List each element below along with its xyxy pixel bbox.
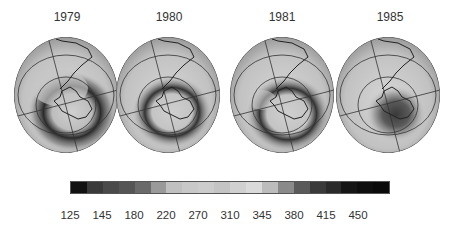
- globes: [0, 0, 459, 170]
- tick-label: 310: [220, 209, 239, 221]
- colorbar-swatch: [373, 182, 389, 193]
- tick-label: 345: [252, 209, 271, 221]
- tick-label: 125: [60, 209, 79, 221]
- colorbar-swatch: [103, 182, 119, 193]
- globe-1979: [14, 37, 118, 153]
- tick-label: 380: [284, 209, 303, 221]
- tick-label: 450: [348, 209, 367, 221]
- globe-1980: [116, 37, 220, 153]
- colorbar: [70, 181, 390, 194]
- colorbar-swatch: [326, 182, 342, 193]
- tick-label: 270: [188, 209, 207, 221]
- tick-label: 180: [124, 209, 143, 221]
- colorbar-swatch: [230, 182, 246, 193]
- colorbar-ticks: 125 145 180 220 270 310 345 380 415 450: [55, 209, 405, 223]
- colorbar-swatch: [135, 182, 151, 193]
- colorbar-swatch: [294, 182, 310, 193]
- colorbar-swatch: [151, 182, 167, 193]
- colorbar-swatch: [214, 182, 230, 193]
- colorbar-swatch: [262, 182, 278, 193]
- colorbar-swatch: [87, 182, 103, 193]
- colorbar-swatch: [198, 182, 214, 193]
- colorbar-swatch: [310, 182, 326, 193]
- colorbar-swatch: [341, 182, 357, 193]
- globe-1985: [336, 37, 440, 153]
- tick-label: 220: [156, 209, 175, 221]
- globe-1981: [230, 37, 334, 153]
- colorbar-swatch: [278, 182, 294, 193]
- colorbar-swatch: [357, 182, 373, 193]
- colorbar-swatch: [246, 182, 262, 193]
- tick-label: 145: [92, 209, 111, 221]
- colorbar-swatch: [166, 182, 182, 193]
- colorbar-swatch: [119, 182, 135, 193]
- colorbar-swatch: [71, 182, 87, 193]
- colorbar-swatch: [182, 182, 198, 193]
- tick-label: 415: [316, 209, 335, 221]
